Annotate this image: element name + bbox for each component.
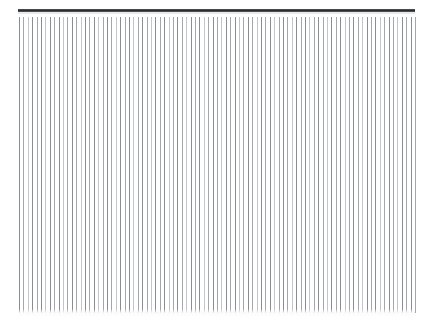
vertical-line [393,17,394,313]
vertical-line [362,17,363,313]
vertical-line [177,17,178,313]
vertical-line [98,17,99,313]
vertical-line [45,17,46,313]
page-canvas [0,0,434,331]
vertical-line [358,17,359,313]
vertical-line [305,17,306,313]
vertical-line [50,17,51,313]
vertical-line [107,17,108,313]
vertical-line [204,17,205,313]
vertical-line [160,17,161,313]
vertical-line [292,17,293,313]
vertical-line [138,17,139,313]
vertical-line [37,17,38,313]
vertical-line [415,17,416,313]
vertical-line [129,17,130,313]
vertical-line [186,17,187,313]
vertical-line [287,17,288,313]
vertical-line [120,17,121,313]
vertical-line [147,17,148,313]
vertical-line [411,17,412,313]
vertical-line [274,17,275,313]
vertical-line [41,17,42,313]
vertical-line [195,17,196,313]
vertical-line [67,17,68,313]
vertical-line [367,17,368,313]
vertical-line [239,17,240,313]
vertical-line [199,17,200,313]
vertical-line [301,17,302,313]
vertical-line [252,17,253,313]
vertical-line [133,17,134,313]
vertical-line [349,17,350,313]
vertical-line [353,17,354,313]
vertical-line [380,17,381,313]
vertical-line [28,17,29,313]
vertical-line [19,17,20,313]
vertical-line [314,17,315,313]
vertical-line [111,17,112,313]
vertical-line [173,17,174,313]
vertical-line [397,17,398,313]
vertical-line [265,17,266,313]
vertical-line [296,17,297,313]
vertical-line [261,17,262,313]
vertical-line [402,17,403,313]
vertical-line [85,17,86,313]
vertical-line [235,17,236,313]
vertical-line-field [19,17,415,313]
vertical-line [54,17,55,313]
vertical-line [270,17,271,313]
vertical-line [279,17,280,313]
vertical-line [76,17,77,313]
vertical-line [323,17,324,313]
vertical-line [155,17,156,313]
vertical-line [318,17,319,313]
vertical-line [389,17,390,313]
vertical-line [375,17,376,313]
vertical-line [257,17,258,313]
vertical-line [164,17,165,313]
vertical-line [72,17,73,313]
horizontal-rule-highlight [18,12,415,14]
vertical-line [243,17,244,313]
vertical-line [116,17,117,313]
vertical-line [151,17,152,313]
vertical-line [125,17,126,313]
vertical-line [327,17,328,313]
vertical-line [208,17,209,313]
vertical-line [283,17,284,313]
vertical-line [23,17,24,313]
vertical-line [213,17,214,313]
vertical-line [142,17,143,313]
vertical-line [336,17,337,313]
vertical-line [81,17,82,313]
vertical-line [32,17,33,313]
vertical-line [63,17,64,313]
vertical-line [371,17,372,313]
vertical-line [345,17,346,313]
vertical-line [182,17,183,313]
vertical-line [103,17,104,313]
vertical-line [406,17,407,313]
vertical-line [94,17,95,313]
vertical-line [230,17,231,313]
vertical-line [191,17,192,313]
vertical-line [89,17,90,313]
vertical-line [248,17,249,313]
vertical-line [309,17,310,313]
vertical-line [331,17,332,313]
vertical-line [59,17,60,313]
vertical-line [226,17,227,313]
vertical-line [221,17,222,313]
vertical-line [384,17,385,313]
vertical-line [169,17,170,313]
vertical-line [340,17,341,313]
vertical-line [217,17,218,313]
